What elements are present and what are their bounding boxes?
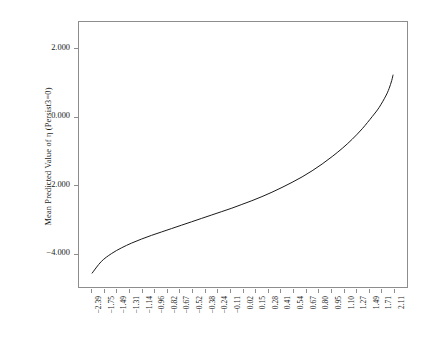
x-tick-mark [129, 289, 130, 293]
x-tick-mark [369, 289, 370, 293]
y-tick-label: −4.000 [30, 248, 70, 257]
x-tick-label: 1.27 [359, 296, 368, 309]
x-tick-label: 0.02 [246, 296, 255, 309]
x-tick-label: −0.11 [233, 296, 242, 313]
x-tick-mark [318, 289, 319, 293]
x-tick-mark [255, 289, 256, 293]
x-tick-mark [205, 289, 206, 293]
x-tick-label: −0.52 [195, 296, 204, 314]
x-tick-mark [280, 289, 281, 293]
y-tick-label: −2.000 [30, 180, 70, 189]
x-tick-mark [167, 289, 168, 293]
x-tick-label: −0.24 [220, 296, 229, 314]
x-tick-mark [356, 289, 357, 293]
x-tick-label: 1.10 [347, 296, 356, 309]
x-tick-mark [381, 289, 382, 293]
x-tick-mark [91, 289, 92, 293]
x-tick-label: −0.96 [157, 296, 166, 314]
x-tick-label: 0.95 [334, 296, 343, 309]
x-tick-mark [243, 289, 244, 293]
x-tick-label: −0.38 [208, 296, 217, 314]
x-tick-label: −0.67 [182, 296, 191, 314]
x-tick-mark [154, 289, 155, 293]
chart-figure: Mean Predicted Value of η (Persist3=0) 2… [0, 0, 428, 345]
x-tick-mark [179, 289, 180, 293]
x-tick-label: −0.82 [170, 296, 179, 314]
x-tick-mark [116, 289, 117, 293]
y-axis-title: Mean Predicted Value of η (Persist3=0) [44, 37, 53, 277]
x-tick-label: 0.67 [309, 296, 318, 309]
x-tick-mark [306, 289, 307, 293]
x-tick-mark [344, 289, 345, 293]
x-tick-label: 0.15 [258, 296, 267, 309]
x-tick-mark [394, 289, 395, 293]
x-tick-mark [230, 289, 231, 293]
x-tick-mark [268, 289, 269, 293]
x-tick-label: 2.11 [397, 296, 406, 309]
y-tick-label: 2.000 [30, 43, 70, 52]
line-series-mean-predicted-eta [79, 22, 407, 287]
plot-area [78, 21, 408, 288]
y-tick-label: 0.000 [30, 111, 70, 120]
x-tick-label: 0.54 [296, 296, 305, 309]
x-tick-label: 1.49 [372, 296, 381, 309]
x-tick-mark [331, 289, 332, 293]
x-tick-mark [192, 289, 193, 293]
x-tick-mark [142, 289, 143, 293]
x-tick-mark [217, 289, 218, 293]
x-tick-label: −2.39 [94, 296, 103, 314]
x-tick-label: −1.31 [132, 296, 141, 314]
x-tick-label: 0.28 [271, 296, 280, 309]
curve-path [92, 75, 393, 274]
x-tick-mark [104, 289, 105, 293]
x-tick-label: 0.80 [321, 296, 330, 309]
x-tick-label: 0.41 [283, 296, 292, 309]
x-tick-label: −1.49 [119, 296, 128, 314]
x-tick-label: −1.75 [107, 296, 116, 314]
x-tick-mark [293, 289, 294, 293]
x-tick-label: 1.71 [384, 296, 393, 309]
x-tick-label: −1.14 [145, 296, 154, 314]
